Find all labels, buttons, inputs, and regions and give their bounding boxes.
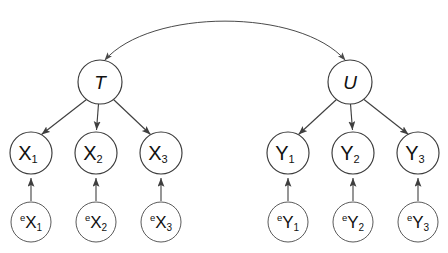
node-Y2[interactable]: Y2: [332, 132, 374, 174]
node-X3-subscript: 3: [162, 153, 168, 165]
edges-T-to-X: [42, 100, 151, 135]
node-X3[interactable]: X3: [140, 132, 182, 174]
node-Y3[interactable]: Y3: [397, 132, 439, 174]
edge-T-X2: [97, 104, 99, 130]
node-X2-base: X: [83, 142, 96, 164]
node-Y1-base: Y: [275, 142, 288, 164]
edge-U-Y1: [299, 100, 337, 135]
node-U-label: U: [343, 72, 357, 93]
edge-T-X3: [114, 100, 151, 135]
node-eY3[interactable]: eY3: [398, 202, 438, 242]
node-eY1-subscript: 1: [294, 222, 300, 233]
edges-U-to-Y: [299, 100, 409, 135]
node-eY2-subscript: 2: [359, 222, 365, 233]
node-eY2[interactable]: eY2: [333, 202, 373, 242]
node-eY2-base: Y: [347, 213, 358, 232]
node-Y2-base: Y: [340, 142, 353, 164]
node-X2[interactable]: X2: [75, 132, 117, 174]
node-X2-subscript: 2: [97, 153, 103, 165]
edge-U-Y3: [364, 100, 409, 135]
edge-T-U-covariance: [105, 21, 346, 60]
path-diagram-svg: T U X1 X2 X3: [0, 0, 448, 253]
node-Y3-base: Y: [405, 142, 418, 164]
edges-error-to-indicator: [31, 178, 418, 201]
node-eY1[interactable]: eY1: [268, 202, 308, 242]
node-Y2-subscript: 2: [354, 153, 360, 165]
edge-T-X1: [42, 100, 87, 135]
node-eY3-subscript: 3: [424, 222, 430, 233]
covariance-arc: [105, 21, 346, 60]
node-Y1[interactable]: Y1: [267, 132, 309, 174]
node-eX3-base: X: [155, 213, 166, 232]
node-T-label: T: [94, 72, 107, 93]
node-eX3-subscript: 3: [167, 222, 173, 233]
node-X1-base: X: [18, 142, 31, 164]
path-diagram-canvas: T U X1 X2 X3: [0, 0, 448, 253]
node-eX2-subscript: 2: [102, 222, 108, 233]
node-T[interactable]: T: [78, 60, 122, 104]
node-eX1-subscript: 1: [37, 222, 43, 233]
node-Y3-subscript: 3: [419, 153, 425, 165]
node-eX1-base: X: [25, 213, 36, 232]
node-X1[interactable]: X1: [10, 132, 52, 174]
edge-U-Y2: [351, 104, 353, 130]
node-U[interactable]: U: [328, 60, 372, 104]
node-Y1-subscript: 1: [289, 153, 295, 165]
node-eX2-base: X: [90, 213, 101, 232]
node-eX3[interactable]: eX3: [141, 202, 181, 242]
node-X3-base: X: [148, 142, 161, 164]
node-eX2[interactable]: eX2: [76, 202, 116, 242]
node-X1-subscript: 1: [32, 153, 38, 165]
node-eY1-base: Y: [282, 213, 293, 232]
node-eX1[interactable]: eX1: [11, 202, 51, 242]
node-eY3-base: Y: [412, 213, 423, 232]
